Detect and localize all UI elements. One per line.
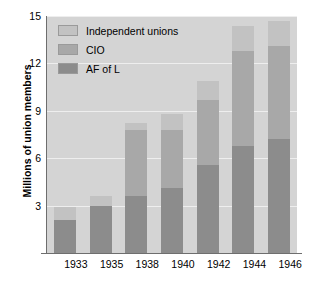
gridline bbox=[47, 16, 297, 17]
bar-1942 bbox=[197, 81, 219, 253]
legend-item-label: AF of L bbox=[86, 63, 120, 75]
x-axis-line bbox=[41, 253, 302, 254]
bar-1940 bbox=[161, 114, 183, 253]
bar-1935 bbox=[90, 196, 112, 253]
bar-segment bbox=[197, 81, 219, 100]
bar-segment bbox=[125, 196, 147, 253]
bar-segment bbox=[125, 130, 147, 196]
legend-item: CIO bbox=[58, 41, 178, 58]
bar-1946 bbox=[268, 21, 290, 253]
bar-segment bbox=[268, 46, 290, 139]
legend-swatch-icon bbox=[58, 44, 78, 55]
bar-segment bbox=[232, 26, 254, 51]
y-axis-tick-label: 9 bbox=[35, 105, 41, 117]
bar-segment bbox=[232, 51, 254, 146]
bar-segment bbox=[197, 100, 219, 165]
x-axis-tick-label: 1946 bbox=[268, 258, 310, 270]
y-axis-tick-label: 12 bbox=[29, 57, 41, 69]
legend-swatch-icon bbox=[58, 63, 78, 74]
union-membership-stacked-bar-chart: Millions of union members 3691215 193319… bbox=[0, 0, 310, 284]
bar-segment bbox=[54, 220, 76, 253]
bar-segment bbox=[54, 207, 76, 220]
y-axis-tick-label: 6 bbox=[35, 152, 41, 164]
bar-1944 bbox=[232, 26, 254, 254]
y-axis-tick-label: 3 bbox=[35, 200, 41, 212]
bar-1938 bbox=[125, 123, 147, 253]
bar-segment bbox=[90, 206, 112, 253]
bar-segment bbox=[161, 130, 183, 188]
bar-segment bbox=[268, 139, 290, 253]
bar-segment bbox=[268, 21, 290, 46]
bar-segment bbox=[197, 165, 219, 253]
bar-segment bbox=[161, 114, 183, 130]
bar-1933 bbox=[54, 207, 76, 253]
legend-item-label: Independent unions bbox=[86, 25, 178, 37]
y-axis-tick-label: 15 bbox=[29, 10, 41, 22]
legend-swatch-icon bbox=[58, 25, 78, 36]
gridline bbox=[47, 111, 297, 112]
legend-item: AF of L bbox=[58, 60, 178, 77]
chart-legend: Independent unionsCIOAF of L bbox=[58, 22, 178, 79]
legend-item: Independent unions bbox=[58, 22, 178, 39]
bar-segment bbox=[90, 196, 112, 205]
legend-item-label: CIO bbox=[86, 44, 105, 56]
bar-segment bbox=[232, 146, 254, 253]
bar-segment bbox=[161, 188, 183, 253]
